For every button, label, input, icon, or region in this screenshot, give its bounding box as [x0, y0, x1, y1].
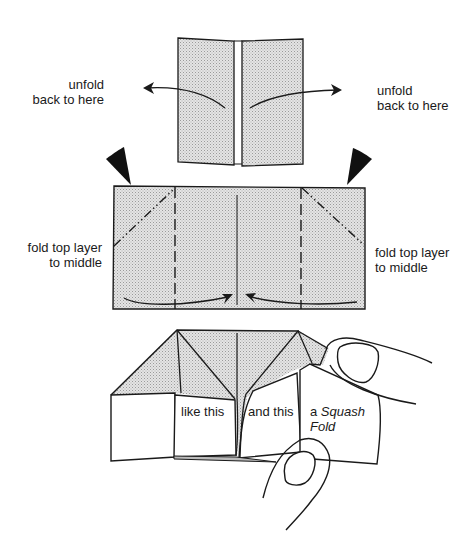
push-arrow-icon	[106, 147, 131, 185]
push-arrow-icon	[347, 148, 372, 185]
label-line: fold top layer	[10, 240, 102, 255]
label-line: unfold	[28, 77, 104, 92]
label-italic: Squash	[321, 404, 365, 419]
step3-panel3-label: a Squash Fold	[310, 404, 365, 434]
label-line: fold top layer	[375, 245, 449, 260]
step1-folded-sheet	[178, 38, 303, 166]
step3-panel1-label: like this	[181, 404, 224, 419]
label-line: back to here	[377, 98, 449, 113]
step2-right-label: fold top layer to middle	[375, 245, 449, 275]
label-line: to middle	[10, 255, 102, 270]
step2-rectangle	[113, 186, 365, 309]
label-line: to middle	[375, 260, 449, 275]
label-prefix: a	[310, 404, 321, 419]
label-line: like this	[181, 404, 224, 419]
label-line: unfold	[377, 83, 449, 98]
step1-right-label: unfold back to here	[377, 83, 449, 113]
step3-panel2-label: and this	[248, 404, 294, 419]
step2-left-label: fold top layer to middle	[10, 240, 102, 270]
label-line: Fold	[310, 419, 365, 434]
step1-left-label: unfold back to here	[28, 77, 104, 107]
label-line: and this	[248, 404, 294, 419]
label-line: back to here	[28, 92, 104, 107]
